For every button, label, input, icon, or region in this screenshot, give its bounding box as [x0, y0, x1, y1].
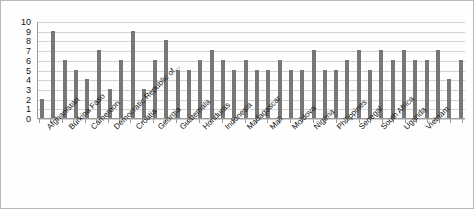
x-axis-tick: [108, 119, 109, 123]
x-axis-labels: AfghanistanBurkina FasoCameroonDemocrati…: [37, 125, 465, 209]
y-axis-tick-label: 5: [26, 67, 31, 76]
x-axis-tick: [267, 119, 268, 123]
bar: [119, 60, 123, 118]
bar: [51, 31, 55, 118]
y-axis-tick-label: 10: [21, 18, 31, 27]
y-axis-tick-label: 7: [26, 47, 31, 56]
chart-figure: 109876543210 AfghanistanBurkina FasoCame…: [0, 0, 474, 209]
x-axis-tick: [222, 119, 223, 123]
y-axis-tick-label: 0: [26, 115, 31, 124]
x-axis-tick: [176, 119, 177, 123]
y-axis-tick-label: 9: [26, 28, 31, 37]
bar: [334, 70, 338, 119]
y-axis-tick-label: 3: [26, 86, 31, 95]
x-axis-tick: [450, 119, 451, 123]
x-axis-tick: [39, 119, 40, 123]
y-axis-tick-label: 4: [26, 76, 31, 85]
x-axis-tick: [153, 119, 154, 123]
x-axis-tick: [245, 119, 246, 123]
x-axis-tick: [462, 119, 463, 123]
y-axis-tick-label: 6: [26, 57, 31, 66]
bar: [74, 70, 78, 119]
bar: [210, 50, 214, 118]
y-axis-tick-label: 1: [26, 105, 31, 114]
y-axis: 109876543210: [1, 15, 35, 126]
bar: [289, 70, 293, 119]
bar: [459, 60, 463, 118]
x-axis-tick: [130, 119, 131, 123]
y-axis-tick-label: 8: [26, 37, 31, 46]
x-axis-tick: [199, 119, 200, 123]
bar: [97, 50, 101, 118]
bar: [40, 99, 44, 118]
bar: [278, 60, 282, 118]
y-axis-tick-label: 2: [26, 96, 31, 105]
